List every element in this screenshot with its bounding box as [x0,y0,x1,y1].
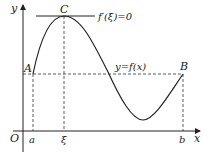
x-axis-label: x [194,132,201,145]
rolle-diagram: y O x A C B a ξ b f′(ξ)=0 y=f(x) [0,0,215,156]
origin-label: O [10,132,19,145]
tangent-annotation: f′(ξ)=0 [97,11,133,22]
curve-annotation: y=f(x) [114,61,146,72]
point-b-label: B [179,60,188,73]
tick-xi-label: ξ [61,134,67,145]
tick-b-label: b [179,134,185,145]
point-c-label: C [60,3,69,16]
y-axis-label: y [10,2,18,15]
curve-f [33,16,183,120]
point-a-label: A [23,62,32,75]
tick-a-label: a [29,134,35,145]
